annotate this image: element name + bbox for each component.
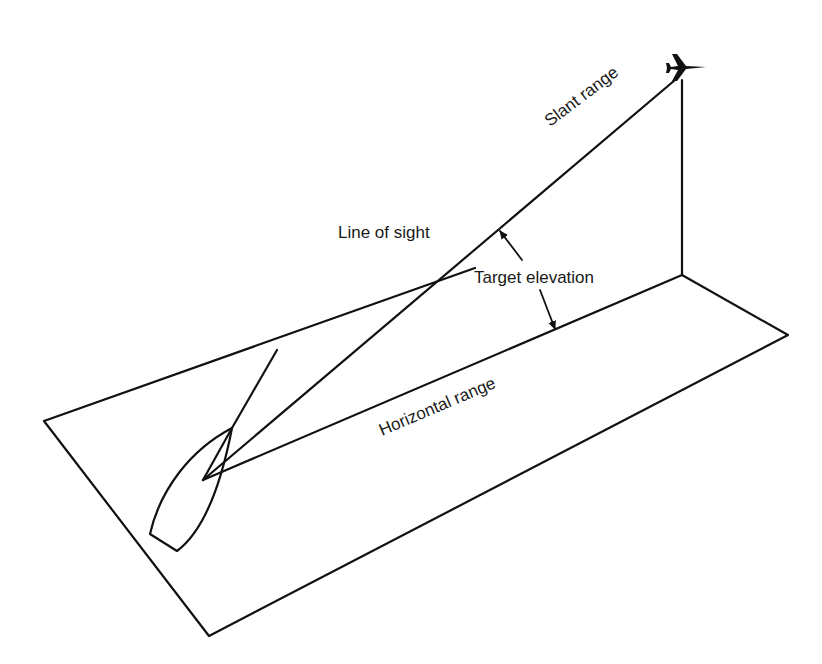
aircraft-icon [666,54,706,81]
horizontal-range-label: Horizontal range [376,373,498,439]
target-elevation-diagram: Slant range Line of sight Target elevati… [0,0,822,664]
slant-range-label: Slant range [541,63,622,131]
elevation-arrow-up [500,231,522,260]
ground-plane-back-edge-left [44,268,475,421]
ship-mast [232,350,277,428]
ship-outline [150,350,277,551]
ground-plane [44,268,788,636]
line-of-sight [203,80,675,480]
ground-plane-outline [44,275,788,636]
line-of-sight-label: Line of sight [338,223,430,242]
elevation-arrow-down [540,290,555,329]
ship-hull [150,428,232,551]
horizontal-range-line [203,275,682,480]
target-elevation-label: Target elevation [474,268,594,287]
